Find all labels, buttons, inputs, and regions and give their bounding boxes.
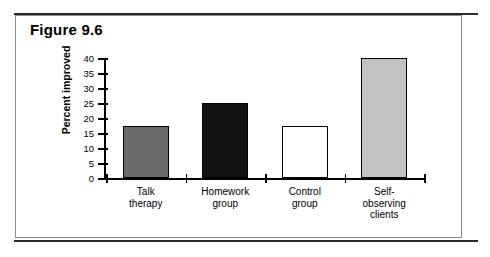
bottom-rule [14, 240, 478, 242]
figure-root: Figure 9.6 Percent improved 051015202530… [0, 0, 490, 257]
y-tick-label-20: 20 [83, 114, 94, 124]
y-tick-label-40: 40 [83, 54, 94, 64]
y-axis-label: Percent improved [60, 30, 72, 150]
bar-1 [123, 126, 169, 179]
y-tick-label-10: 10 [83, 144, 94, 154]
category-label-line: Self- [345, 186, 425, 198]
y-tick-label-25: 25 [83, 99, 94, 109]
category-label-line: group [265, 198, 345, 210]
y-tick-label-30: 30 [83, 84, 94, 94]
category-label-line: Talk [106, 186, 186, 198]
category-label-line: group [186, 198, 266, 210]
bar-2 [202, 103, 248, 178]
category-label-line: clients [345, 209, 425, 221]
y-tick-label-35: 35 [83, 69, 94, 79]
category-label-3: Controlgroup [265, 186, 345, 209]
bars-layer [106, 58, 424, 178]
category-label-4: Self-observingclients [345, 186, 425, 221]
x-tick-4 [424, 174, 426, 183]
category-label-1: Talktherapy [106, 186, 186, 209]
category-label-2: Homeworkgroup [186, 186, 266, 209]
bar-3 [282, 126, 328, 179]
category-label-line: Homework [186, 186, 266, 198]
x-axis-line [104, 178, 424, 180]
category-label-line: Control [265, 186, 345, 198]
y-tick-label-15: 15 [83, 129, 94, 139]
category-label-line: therapy [106, 198, 186, 210]
y-tick-label-5: 5 [89, 159, 94, 169]
y-tick-label-0: 0 [89, 174, 94, 184]
bar-4 [361, 58, 407, 178]
category-label-line: observing [345, 198, 425, 210]
bar-chart-plot-area: Percent improved 0510152025303540 Talkth… [68, 50, 428, 235]
